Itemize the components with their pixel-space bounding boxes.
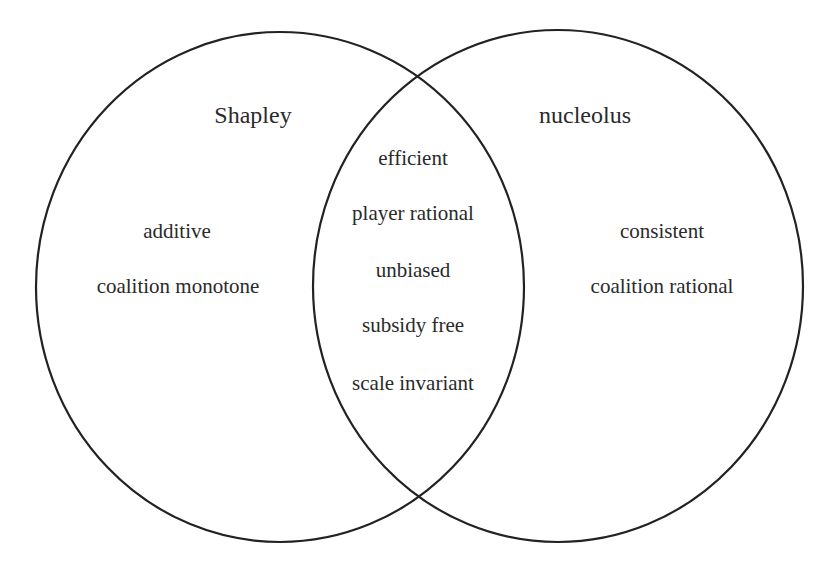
shared-property-player-rational: player rational — [352, 201, 474, 225]
shapley-property-additive: additive — [143, 219, 211, 243]
shapley-set-label: Shapley — [214, 102, 291, 128]
shared-property-subsidy-free: subsidy free — [362, 313, 464, 337]
nucleolus-property-consistent: consistent — [620, 219, 704, 243]
shared-property-unbiased: unbiased — [376, 258, 451, 282]
nucleolus-set-label: nucleolus — [539, 102, 631, 128]
nucleolus-property-coalition-rational: coalition rational — [591, 274, 734, 298]
shapley-property-coalition-monotone: coalition monotone — [97, 274, 260, 298]
venn-diagram: Shapley nucleolus additive coalition mon… — [0, 0, 828, 575]
shared-property-efficient: efficient — [378, 146, 448, 170]
shared-property-scale-invariant: scale invariant — [352, 371, 474, 395]
